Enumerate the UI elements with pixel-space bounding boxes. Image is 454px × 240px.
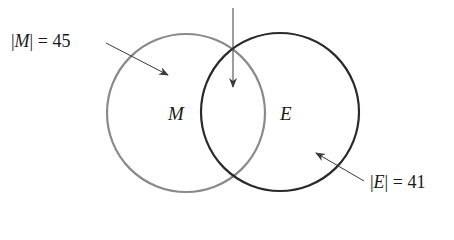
cardinality-value: 45 [52, 31, 70, 51]
cardinality-value: 41 [407, 172, 425, 192]
e-cardinality-label: |E| = 41 [370, 173, 425, 191]
m-cardinality-arrow [106, 43, 168, 75]
set-name: E [374, 172, 385, 192]
equals-sign: = [393, 172, 403, 192]
m-cardinality-label: |M| = 45 [11, 32, 70, 50]
abs-bar-right: | [30, 31, 34, 51]
e-cardinality-arrow [316, 153, 364, 181]
set-e-label: E [280, 104, 292, 123]
set-m-circle [107, 34, 265, 192]
set-name: M [15, 31, 30, 51]
abs-bar-right: | [385, 172, 389, 192]
set-m-label: M [168, 104, 184, 123]
equals-sign: = [38, 31, 48, 51]
